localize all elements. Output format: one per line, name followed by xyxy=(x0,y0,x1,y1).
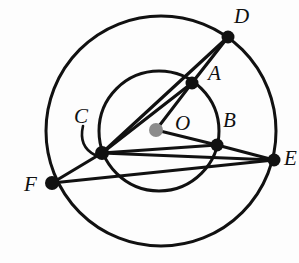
point-label-f: F xyxy=(24,174,37,195)
point-dot-d xyxy=(222,31,235,44)
point-label-d: D xyxy=(234,6,249,27)
point-dot-c xyxy=(95,146,109,160)
geometry-diagram: DABCEFO xyxy=(0,0,299,263)
point-label-c: C xyxy=(74,106,88,127)
point-dot-b xyxy=(211,139,224,152)
point-label-e: E xyxy=(284,148,297,169)
diagram-canvas xyxy=(0,0,299,263)
point-dot-o xyxy=(149,123,163,137)
point-dot-f xyxy=(45,176,59,190)
segment-C-D xyxy=(102,37,228,153)
point-label-o: O xyxy=(175,113,190,134)
point-dot-a xyxy=(186,77,199,90)
point-label-a: A xyxy=(208,63,221,84)
point-dot-e xyxy=(268,154,281,167)
point-label-b: B xyxy=(223,110,236,131)
leaders-group xyxy=(82,126,95,155)
segment-C-B xyxy=(102,145,217,153)
leader-arc-C xyxy=(82,126,95,155)
